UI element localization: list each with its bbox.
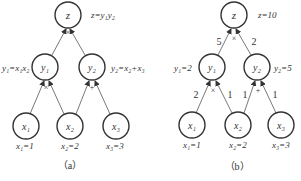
grad-y2-z: 2: [252, 36, 257, 47]
panel-b: × × + 5 2 2 1 1 1 z y₁ y₂ x₁ x₂: [173, 2, 294, 172]
annotation-x1: x₁=1: [15, 141, 34, 151]
grad-x1-y1: 2: [194, 89, 199, 100]
node-x1-label: x₁: [21, 121, 30, 132]
computational-graph-figure: × × + z y₁ y₂ x₁ x₂ x₃ z=y₁y₂ y₁=x: [0, 0, 301, 181]
annotation-x3: x₃=3: [271, 140, 290, 150]
annotation-z: z=y₁y₂: [90, 10, 115, 20]
edge-y2-z: [70, 29, 85, 55]
node-x3: x₃: [268, 112, 294, 138]
grad-x2-y1: 1: [228, 89, 233, 100]
annotation-x3: x₃=3: [105, 141, 124, 151]
annotation-y2: y₂=x₂+x₃: [110, 63, 145, 73]
caption-b: （b）: [225, 161, 250, 172]
annotation-y1: y₁=2: [173, 63, 192, 73]
node-z-label: z: [65, 9, 71, 21]
node-x3-label: x₃: [276, 120, 285, 131]
node-y2-label: y₂: [252, 62, 261, 73]
node-x3-label: x₃: [111, 121, 120, 132]
op-y1: ×: [211, 86, 216, 95]
op-z: ×: [66, 28, 71, 37]
edge-x3-y2: [95, 81, 110, 114]
annotation-x2: x₂=2: [228, 140, 247, 150]
node-z: z: [221, 2, 247, 28]
node-x1-label: x₁: [187, 120, 196, 131]
node-y1-label: y₁: [40, 62, 49, 73]
annotation-x1: x₁=1: [182, 140, 201, 150]
node-x2: x₂: [57, 113, 83, 139]
node-x1: x₁: [13, 113, 39, 139]
node-y1: y₁: [199, 54, 225, 80]
node-y1: y₁: [32, 54, 58, 80]
node-y2-label: y₂: [87, 62, 96, 73]
node-y2: y₂: [79, 54, 105, 80]
op-y2: +: [256, 86, 261, 95]
node-z-label: z: [231, 9, 237, 21]
edge-y2-z: [236, 29, 251, 55]
grad-x2-y2: 1: [243, 89, 248, 100]
node-x2: x₂: [225, 112, 251, 138]
op-z: ×: [232, 34, 237, 43]
node-y1-label: y₁: [207, 62, 216, 73]
caption-a: （a）: [58, 160, 82, 171]
edge-x1-y1: [30, 81, 44, 114]
annotation-y2: y₂=5: [273, 63, 292, 73]
node-x2-label: x₂: [233, 120, 242, 131]
node-x2-label: x₂: [65, 121, 74, 132]
node-z: z: [55, 2, 81, 28]
panel-a: × × + z y₁ y₂ x₁ x₂ x₃ z=y₁y₂ y₁=x: [1, 2, 145, 171]
op-y2: +: [90, 83, 95, 92]
annotation-z: z=10: [257, 10, 277, 20]
grad-x3-y2: 1: [273, 89, 278, 100]
grad-y1-z: 5: [217, 36, 222, 47]
edge-x2-y1: [49, 81, 64, 114]
node-y2: y₂: [244, 54, 270, 80]
annotation-x2: x₂=2: [60, 141, 79, 151]
edge-x2-y2: [76, 81, 89, 114]
annotation-y1: y₁=x₁x₂: [1, 63, 29, 73]
node-x1: x₁: [179, 112, 205, 138]
op-y1: ×: [44, 83, 49, 92]
node-x3: x₃: [103, 113, 129, 139]
edge-y1-z: [52, 29, 66, 55]
